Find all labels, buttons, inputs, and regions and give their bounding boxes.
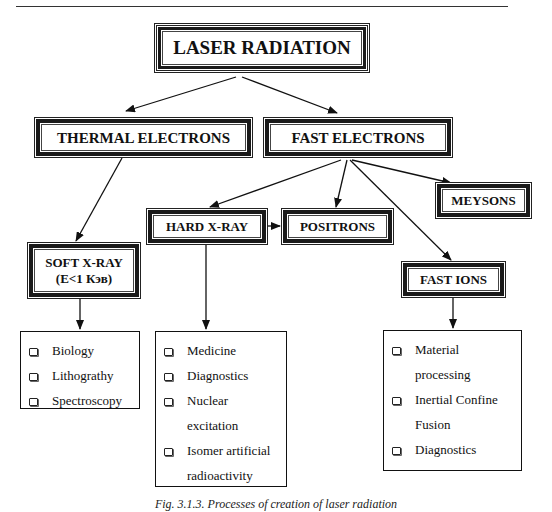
node-hard-x-ray: HARD X-RAY: [148, 210, 266, 243]
checkbox-bullet-icon: [29, 398, 38, 406]
node-label: THERMAL ELECTRONS: [57, 129, 230, 147]
node-label: POSITRONS: [300, 219, 375, 235]
list-item: Diagnostics: [392, 437, 515, 462]
list-item: Isomer artificial radioactivity: [164, 438, 280, 488]
node-label: SOFT X-RAY: [45, 255, 123, 271]
checkbox-bullet-icon: [29, 373, 38, 381]
checkbox-bullet-icon: [392, 397, 401, 405]
node-laser-radiation: LASER RADIATION: [158, 27, 366, 69]
list-item: Medicine: [164, 338, 280, 363]
checkbox-bullet-icon: [164, 448, 173, 456]
checkbox-bullet-icon: [392, 447, 401, 455]
node-soft-x-ray: SOFT X-RAY (E<1 Кэв): [29, 244, 139, 297]
list-item: Diagnostics: [164, 363, 280, 388]
node-positrons: POSITRONS: [283, 210, 392, 243]
node-label: FAST ELECTRONS: [291, 129, 424, 147]
checkbox-bullet-icon: [164, 373, 173, 381]
list-item: Nuclear excitation: [164, 388, 280, 438]
node-sublabel: (E<1 Кэв): [56, 271, 112, 287]
arrow-fast-hard: [210, 160, 341, 207]
list-soft-x-ray-applications: Biology Lithograthy Spectroscopy: [20, 331, 140, 409]
checkbox-bullet-icon: [392, 347, 401, 355]
arrow-thermal-soft: [76, 158, 122, 241]
node-label: MEYSONS: [451, 193, 515, 209]
node-meysons: MEYSONS: [437, 184, 530, 217]
arrow-root-thermal: [126, 77, 236, 111]
arrow-fast-meysons: [352, 160, 451, 183]
node-label: LASER RADIATION: [173, 37, 351, 60]
figure-caption: Fig. 3.1.3. Processes of creation of las…: [0, 497, 552, 512]
list-item: Inertial Confine Fusion: [392, 387, 515, 437]
checkbox-bullet-icon: [164, 398, 173, 406]
checkbox-bullet-icon: [164, 348, 173, 356]
list-item: Lithograthy: [29, 363, 133, 388]
node-thermal-electrons: THERMAL ELECTRONS: [36, 119, 251, 156]
list-fast-ions-applications: Material processing Inertial Confine Fus…: [383, 330, 522, 471]
list-item: Spectroscopy: [29, 388, 133, 413]
node-label: HARD X-RAY: [166, 219, 248, 235]
list-hard-x-ray-applications: Medicine Diagnostics Nuclear excitation …: [155, 331, 287, 487]
node-label: FAST IONS: [420, 272, 487, 288]
arrow-fast-positrons: [336, 160, 347, 207]
checkbox-bullet-icon: [29, 348, 38, 356]
node-fast-electrons: FAST ELECTRONS: [265, 119, 451, 156]
node-fast-ions: FAST IONS: [403, 263, 504, 296]
arrow-root-fast: [242, 77, 337, 113]
list-item: Material processing: [392, 337, 515, 387]
list-item: Biology: [29, 338, 133, 363]
